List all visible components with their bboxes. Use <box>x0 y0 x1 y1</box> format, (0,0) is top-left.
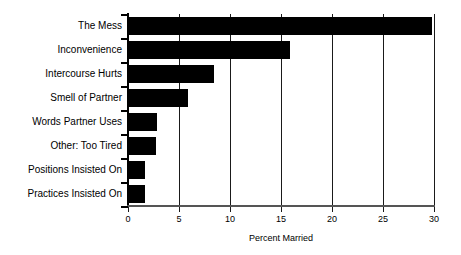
bar-row <box>128 14 434 38</box>
y-axis-tick-label: Smell of Partner <box>4 92 122 103</box>
y-axis-tick-mark <box>121 14 128 16</box>
y-axis-tick-label: Practices Insisted On <box>4 188 122 199</box>
x-axis-tick-label: 15 <box>268 214 294 224</box>
bar <box>128 65 214 83</box>
x-axis-tick-label: 0 <box>115 214 141 224</box>
y-axis-tick-mark <box>121 182 128 184</box>
x-axis-tick-label: 30 <box>421 214 447 224</box>
x-axis-tick-mark <box>179 207 180 212</box>
x-axis-tick-mark <box>332 207 333 212</box>
y-axis-tick-label: Words Partner Uses <box>4 116 122 127</box>
y-axis-tick-label: The Mess <box>4 20 122 31</box>
y-axis-tick-mark <box>121 134 128 136</box>
x-axis-tick-label: 20 <box>319 214 345 224</box>
bar <box>128 185 145 203</box>
y-axis-tick-label: Intercourse Hurts <box>4 68 122 79</box>
bar-row <box>128 182 434 206</box>
x-axis-tick-mark <box>383 207 384 212</box>
y-axis-tick-mark <box>121 206 128 208</box>
y-axis-category-labels: The MessInconvenienceIntercourse HurtsSm… <box>0 14 122 206</box>
x-axis-tick-label: 25 <box>370 214 396 224</box>
y-axis-tick-mark <box>121 158 128 160</box>
bar-row <box>128 158 434 182</box>
plot-area <box>128 14 434 206</box>
y-axis-tick-mark <box>121 38 128 40</box>
bar-row <box>128 86 434 110</box>
y-axis-tick-mark <box>121 62 128 64</box>
bar-row <box>128 110 434 134</box>
bar <box>128 113 157 131</box>
bar <box>128 161 145 179</box>
bar <box>128 89 188 107</box>
bar-row <box>128 38 434 62</box>
bar-chart: The MessInconvenienceIntercourse HurtsSm… <box>0 0 461 255</box>
y-axis-tick-label: Other: Too Tired <box>4 140 122 151</box>
bar <box>128 137 156 155</box>
gridline <box>434 14 435 206</box>
bar-row <box>128 134 434 158</box>
bar <box>128 41 290 59</box>
x-axis-title: Percent Married <box>128 233 434 244</box>
y-axis-tick-label: Positions Insisted On <box>4 164 122 175</box>
x-axis-tick-label: 10 <box>217 214 243 224</box>
x-axis-tick-mark <box>281 207 282 212</box>
x-axis-tick-mark <box>230 207 231 212</box>
bar-row <box>128 62 434 86</box>
x-axis-tick-mark <box>128 207 129 212</box>
y-axis-tick-mark <box>121 86 128 88</box>
x-axis-tick-label: 5 <box>166 214 192 224</box>
y-axis-tick-mark <box>121 110 128 112</box>
bar <box>128 17 432 35</box>
y-axis-tick-label: Inconvenience <box>4 44 122 55</box>
x-axis-tick-mark <box>434 207 435 212</box>
